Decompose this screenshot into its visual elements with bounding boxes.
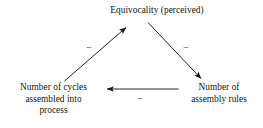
edge-sign-rules-to-cycles: − [134,94,146,104]
arrow-cycles-to-equivocality [65,28,127,82]
node-cycles: Number of cycles assembled into process [2,82,105,117]
edge-sign-cycles-to-equivocality: − [83,43,95,53]
causal-loop-diagram: Equivocality (perceived) Number of cycle… [0,0,263,128]
arrow-equivocality-to-rules [148,23,201,79]
node-rules: Number of assembly rules [176,82,262,105]
node-equivocality: Equivocality (perceived) [84,5,230,17]
edge-sign-equivocality-to-rules: − [180,43,192,53]
